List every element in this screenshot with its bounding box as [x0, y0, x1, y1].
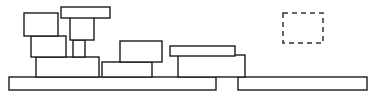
- left-stack-top-block[interactable]: [24, 13, 58, 36]
- tower-top-bar[interactable]: [61, 7, 110, 18]
- blocks-group: [24, 7, 245, 77]
- right-top-bar[interactable]: [170, 46, 235, 56]
- tower-narrow-column[interactable]: [73, 40, 85, 57]
- right-lower-block[interactable]: [178, 55, 245, 77]
- center-lower-block[interactable]: [102, 62, 152, 77]
- target-zone-group: [283, 13, 323, 43]
- right-ground-platform: [238, 77, 367, 90]
- tower-mid-block[interactable]: [70, 17, 94, 40]
- center-upper-block[interactable]: [120, 41, 162, 62]
- left-ground-platform: [9, 77, 216, 90]
- dashed-target-zone[interactable]: [283, 13, 323, 43]
- left-stack-base-block[interactable]: [36, 57, 99, 77]
- platforms-group: [9, 77, 367, 90]
- left-stack-middle-block[interactable]: [31, 36, 66, 57]
- block-scene-canvas: [0, 0, 378, 98]
- scene-svg: [0, 0, 378, 98]
